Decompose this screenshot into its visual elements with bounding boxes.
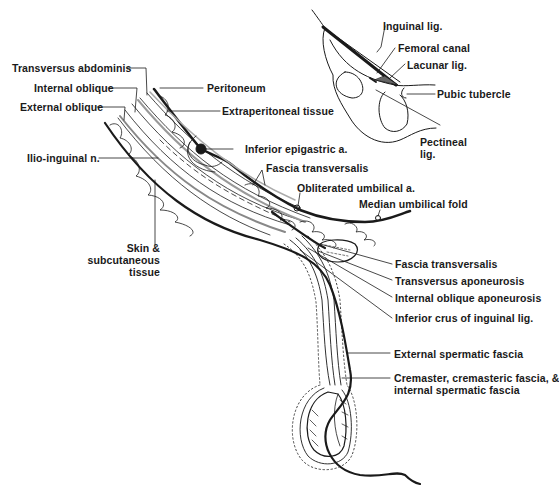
label-internal-oblique-aponeurosis: Internal oblique aponeurosis — [395, 292, 541, 304]
label-inferior-epigastric-a: Inferior epigastric a. — [245, 143, 348, 155]
spermatic-cord — [290, 240, 330, 385]
label-skin-1: Skin & — [100, 242, 160, 254]
label-fascia-transversalis-upper: Fascia transversalis — [266, 162, 368, 174]
label-transversus-aponeurosis: Transversus aponeurosis — [395, 275, 525, 287]
leader-lacunar — [390, 64, 405, 78]
label-inferior-crus: Inferior crus of inguinal lig. — [395, 312, 533, 324]
label-fascia-transversalis-lower: Fascia transversalis — [395, 258, 497, 270]
label-pectineal-2: lig. — [420, 148, 436, 160]
label-median-umbilical-fold: Median umbilical fold — [359, 198, 468, 210]
lacunar-ligament — [375, 76, 398, 85]
pubic-tubercle-shape — [402, 88, 406, 98]
label-pubic-tubercle: Pubic tubercle — [437, 88, 511, 100]
label-pectineal-1: Pectineal — [420, 136, 467, 148]
label-ilio-inguinal-n: Ilio-inguinal n. — [27, 152, 100, 164]
label-cremaster-1: Cremaster, cremasteric fascia, & — [394, 372, 559, 384]
label-inguinal-lig: Inguinal lig. — [383, 20, 443, 32]
obturator-outline — [336, 72, 363, 98]
label-skin-2: subcutaneous — [80, 254, 160, 266]
label-extraperitoneal-tissue: Extraperitoneal tissue — [222, 105, 334, 117]
label-internal-oblique: Internal oblique — [34, 82, 114, 94]
label-transversus-abdominis: Transversus abdominis — [12, 62, 131, 74]
label-lacunar-lig: Lacunar lig. — [407, 59, 467, 71]
label-obliterated-umbilical-a: Obliterated umbilical a. — [297, 182, 415, 194]
label-peritoneum: Peritoneum — [207, 82, 266, 94]
label-external-oblique: External oblique — [20, 101, 103, 113]
label-cremaster-2: internal spermatic fascia — [394, 384, 520, 396]
leader-femoral — [377, 48, 395, 73]
label-external-spermatic-fascia: External spermatic fascia — [394, 348, 523, 360]
label-femoral-canal: Femoral canal — [398, 42, 470, 54]
label-skin-3: tissue — [100, 266, 160, 278]
